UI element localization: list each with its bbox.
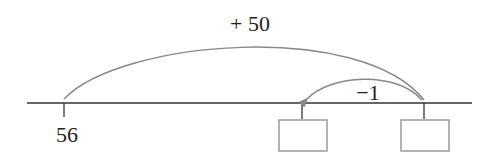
jump-label-minus-1: −1 xyxy=(356,80,379,105)
start-label: 56 xyxy=(56,122,78,147)
number-line-diagram: + 50 −1 56 xyxy=(0,0,497,157)
answer-box-right[interactable] xyxy=(401,120,449,151)
jump-label-plus-50: + 50 xyxy=(230,11,270,36)
answer-box-left[interactable] xyxy=(279,120,327,151)
